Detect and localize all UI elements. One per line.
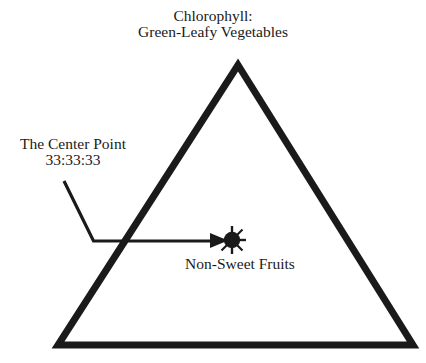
nutrition-triangle-diagram: Chlorophyll: Green-Leafy Vegetables The … [0, 0, 426, 363]
apex-title-line2: Green-Leafy Vegetables [0, 24, 426, 40]
apex-title-line1: Chlorophyll: [0, 8, 426, 24]
center-point-callout-value: 33:33:33 [0, 152, 146, 168]
callout-leader-line [64, 181, 214, 241]
triangle-outline [58, 65, 413, 345]
apex-title: Chlorophyll: Green-Leafy Vegetables [0, 8, 426, 41]
non-sweet-fruits-label: Non-Sweet Fruits [160, 256, 320, 272]
diagram-canvas [0, 0, 426, 363]
center-point-callout-line1: The Center Point [0, 136, 146, 152]
center-point-callout-label: The Center Point 33:33:33 [0, 136, 146, 169]
center-point-marker-icon [218, 226, 246, 254]
